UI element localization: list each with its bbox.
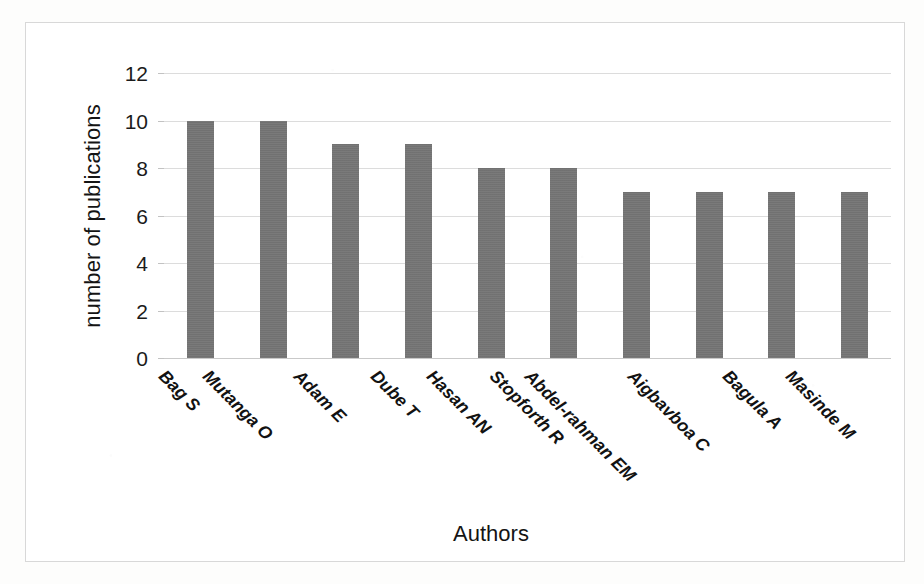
- x-tick-label: Dube T: [366, 366, 423, 423]
- x-tick-label: Bag S: [154, 366, 204, 416]
- y-tick-mark-12: [158, 73, 164, 74]
- scanned-page-background: number of publications 024681012 Bag SMu…: [0, 0, 924, 584]
- x-tick-label: Aigbavboa C: [623, 366, 713, 456]
- x-tick-label: Bagula A: [718, 366, 786, 434]
- bar: [550, 168, 577, 358]
- y-tick-mark-4: [158, 263, 164, 264]
- bar: [332, 144, 359, 358]
- x-tick-label: Hasan AN: [422, 366, 495, 439]
- x-tick-label: Masinde M: [781, 366, 859, 444]
- y-tick-label: 4: [114, 253, 148, 274]
- y-tick-label: 6: [114, 205, 148, 226]
- bar: [260, 121, 287, 359]
- y-tick-mark-0: [158, 358, 164, 359]
- y-tick-mark-6: [158, 216, 164, 217]
- y-axis-title-text: number of publications: [80, 104, 106, 328]
- bar: [478, 168, 505, 358]
- x-tick-label: Mutanga O: [199, 366, 278, 445]
- bar: [623, 192, 650, 358]
- y-tick-mark-2: [158, 311, 164, 312]
- x-axis-title: Authors: [51, 521, 924, 547]
- x-axis-tick-labels: Bag SMutanga OAdam EDube THasan ANStopfo…: [164, 360, 891, 490]
- gridline-0: [164, 358, 891, 359]
- bar: [768, 192, 795, 358]
- x-tick-label: Adam E: [289, 366, 350, 427]
- y-axis-title: number of publications: [78, 73, 108, 358]
- bar: [841, 192, 868, 358]
- y-tick-mark-10: [158, 121, 164, 122]
- plot-area: 024681012: [164, 73, 891, 358]
- bar: [696, 192, 723, 358]
- y-tick-label: 12: [114, 63, 148, 84]
- y-tick-mark-8: [158, 168, 164, 169]
- y-tick-label: 2: [114, 300, 148, 321]
- gridline-12: [164, 73, 891, 74]
- bar: [187, 121, 214, 359]
- bar: [405, 144, 432, 358]
- chart-frame: number of publications 024681012 Bag SMu…: [25, 22, 905, 562]
- y-tick-label: 10: [114, 110, 148, 131]
- y-tick-label: 0: [114, 348, 148, 369]
- y-tick-label: 8: [114, 158, 148, 179]
